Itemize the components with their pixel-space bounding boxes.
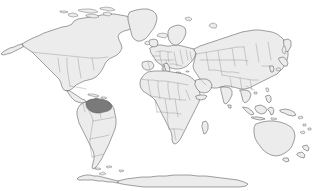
korea-peninsula[interactable]	[270, 66, 274, 72]
hainan-island[interactable]	[254, 92, 257, 94]
world-map-container	[0, 0, 313, 191]
cyprus-island[interactable]	[186, 71, 189, 72]
world-map[interactable]	[0, 0, 313, 191]
corsica-island[interactable]	[162, 65, 164, 67]
fiji-islands[interactable]	[308, 128, 311, 130]
vanuatu-islands[interactable]	[303, 124, 306, 126]
